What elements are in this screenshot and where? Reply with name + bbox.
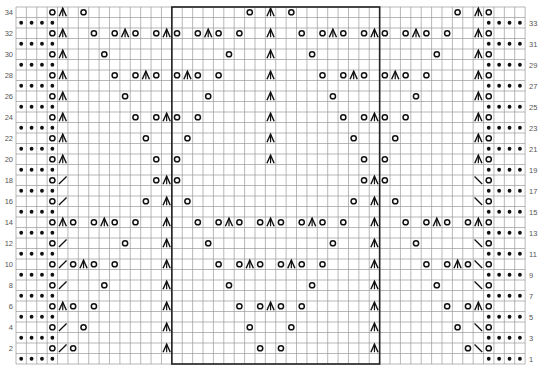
yarn-over-symbol: [486, 52, 491, 57]
purl-dot-symbol: [508, 105, 512, 109]
yarn-over-symbol: [50, 115, 55, 120]
yarn-over-symbol: [424, 73, 429, 78]
yarn-over-symbol: [278, 220, 283, 225]
purl-dot-symbol: [30, 336, 34, 340]
chart-grid: [16, 7, 525, 364]
double-decrease-symbol: [371, 29, 378, 37]
purl-dot-symbol: [19, 336, 23, 340]
purl-dot-symbol: [487, 252, 491, 256]
purl-dot-symbol: [40, 210, 44, 214]
purl-dot-symbol: [19, 63, 23, 67]
yarn-over-symbol: [226, 283, 231, 288]
purl-dot-symbol: [518, 63, 522, 67]
purl-dot-symbol: [19, 147, 23, 151]
purl-dot-symbol: [497, 294, 501, 298]
double-decrease-symbol: [371, 176, 378, 184]
yarn-over-symbol: [320, 31, 325, 36]
double-decrease-symbol: [475, 155, 482, 163]
purl-dot-symbol: [487, 357, 491, 361]
yarn-over-symbol: [455, 10, 460, 15]
double-decrease-symbol: [371, 197, 378, 205]
yarn-over-symbol: [403, 115, 408, 120]
purl-dot-symbol: [19, 315, 23, 319]
row-label: 6: [9, 302, 13, 311]
yarn-over-symbol: [195, 31, 200, 36]
purl-dot-symbol: [508, 231, 512, 235]
yarn-over-symbol: [195, 115, 200, 120]
yarn-over-symbol: [133, 115, 138, 120]
row-label: 8: [9, 281, 13, 290]
yarn-over-symbol: [278, 304, 283, 309]
purl-dot-symbol: [487, 168, 491, 172]
purl-dot-symbol: [19, 189, 23, 193]
purl-dot-symbol: [497, 105, 501, 109]
purl-dot-symbol: [40, 336, 44, 340]
yarn-over-symbol: [278, 262, 283, 267]
yarn-over-symbol: [102, 283, 107, 288]
row-label: 21: [529, 145, 537, 154]
purl-dot-symbol: [518, 105, 522, 109]
yarn-over-symbol: [216, 262, 221, 267]
yarn-over-symbol: [382, 178, 387, 183]
row-label: 26: [5, 92, 13, 101]
ssk-symbol: [475, 281, 483, 289]
double-decrease-symbol: [163, 113, 170, 121]
yarn-over-symbol: [351, 199, 356, 204]
yarn-over-symbol: [341, 73, 346, 78]
purl-dot-symbol: [19, 168, 23, 172]
purl-dot-symbol: [50, 84, 54, 88]
ssk-symbol: [475, 260, 483, 268]
yarn-over-symbol: [50, 73, 55, 78]
yarn-over-symbol: [81, 325, 86, 330]
purl-dot-symbol: [518, 84, 522, 88]
yarn-over-symbol: [289, 10, 294, 15]
purl-dot-symbol: [30, 21, 34, 25]
yarn-over-symbol: [216, 220, 221, 225]
yarn-over-symbol: [341, 220, 346, 225]
yarn-over-symbol: [133, 31, 138, 36]
double-decrease-symbol: [163, 260, 170, 268]
double-decrease-symbol: [163, 239, 170, 247]
row-label: 19: [529, 166, 537, 175]
yarn-over-symbol: [206, 94, 211, 99]
purl-dot-symbol: [40, 126, 44, 130]
purl-dot-symbol: [40, 42, 44, 46]
double-decrease-symbol: [163, 29, 170, 37]
double-decrease-symbol: [267, 92, 274, 100]
row-label: 22: [5, 134, 13, 143]
double-decrease-symbol: [59, 50, 66, 58]
purl-dot-symbol: [487, 210, 491, 214]
yarn-over-symbol: [361, 31, 366, 36]
k2tog-symbol: [59, 176, 67, 184]
double-decrease-symbol: [371, 218, 378, 226]
yarn-over-symbol: [195, 220, 200, 225]
yarn-over-symbol: [185, 136, 190, 141]
row-label: 1: [529, 355, 533, 364]
k2tog-symbol: [59, 260, 67, 268]
purl-dot-symbol: [487, 105, 491, 109]
yarn-over-symbol: [486, 10, 491, 15]
yarn-over-symbol: [50, 241, 55, 246]
yarn-over-symbol: [486, 262, 491, 267]
yarn-over-symbol: [486, 199, 491, 204]
yarn-over-symbol: [258, 262, 263, 267]
yarn-over-symbol: [143, 136, 148, 141]
yarn-over-symbol: [486, 31, 491, 36]
yarn-over-symbol: [50, 10, 55, 15]
double-decrease-symbol: [59, 92, 66, 100]
double-decrease-symbol: [475, 8, 482, 16]
yarn-over-symbol: [424, 31, 429, 36]
purl-dot-symbol: [518, 315, 522, 319]
yarn-over-symbol: [434, 52, 439, 57]
purl-dot-symbol: [50, 168, 54, 172]
purl-dot-symbol: [30, 357, 34, 361]
purl-dot-symbol: [487, 231, 491, 235]
yarn-over-symbol: [361, 157, 366, 162]
yarn-over-symbol: [91, 262, 96, 267]
purl-dot-symbol: [30, 63, 34, 67]
purl-dot-symbol: [518, 294, 522, 298]
yarn-over-symbol: [112, 262, 117, 267]
row-number-labels: 3432302826242220181614121086423331292725…: [5, 8, 538, 364]
yarn-over-symbol: [258, 220, 263, 225]
double-decrease-symbol: [59, 218, 66, 226]
